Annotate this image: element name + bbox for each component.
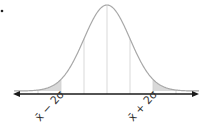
right-arrow-icon <box>192 91 199 97</box>
bell-curve <box>14 5 199 91</box>
list-bullet <box>1 10 4 13</box>
x-axis <box>13 91 199 97</box>
left-arrow-icon <box>13 91 20 97</box>
sigma-guide-lines <box>38 5 176 94</box>
normal-distribution-diagram: x̄ − 2σ x̄ + 2σ <box>0 0 211 136</box>
